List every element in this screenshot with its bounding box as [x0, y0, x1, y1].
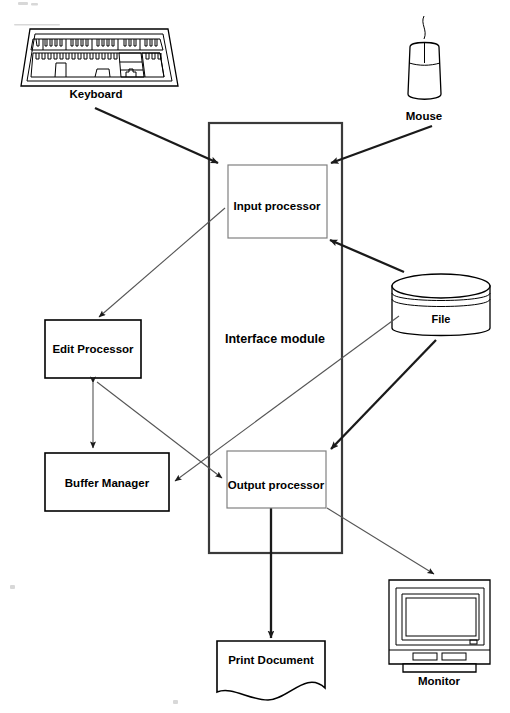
arrow-keyboard-to-input	[95, 108, 218, 163]
keyboard-label: Keyboard	[69, 88, 122, 100]
output-processor-label: Output processor	[228, 479, 325, 491]
keyboard-device: Keyboard	[21, 29, 178, 100]
edit-processor-label: Edit Processor	[52, 343, 134, 355]
mouse-device: Mouse	[406, 16, 442, 122]
buffer-manager-label: Buffer Manager	[65, 477, 150, 489]
architecture-diagram: Keyboard Mouse Interface module File	[0, 0, 510, 713]
print-document-label: Print Document	[228, 654, 314, 666]
arrow-file-to-output	[331, 340, 436, 449]
file-store: File	[392, 274, 490, 336]
arrow-input-to-edit	[99, 208, 225, 317]
buffer-manager-block: Buffer Manager	[45, 453, 169, 511]
monitor-device: Monitor	[389, 580, 490, 687]
file-label: File	[432, 313, 451, 325]
output-processor-block: Output processor	[227, 451, 326, 508]
interface-module-label: Interface module	[225, 332, 325, 346]
input-processor-label: Input processor	[234, 200, 321, 212]
edit-processor-block: Edit Processor	[45, 320, 141, 378]
arrow-mouse-to-input	[331, 126, 432, 163]
print-document-shape: Print Document	[217, 641, 325, 700]
input-processor-block: Input processor	[228, 165, 327, 238]
mouse-label: Mouse	[406, 110, 442, 122]
diagram-canvas: Keyboard Mouse Interface module File	[0, 0, 510, 713]
monitor-label: Monitor	[418, 675, 461, 687]
